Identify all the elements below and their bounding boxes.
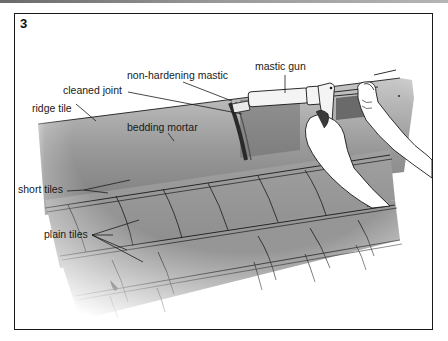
label-plain-tiles: plain tiles	[44, 229, 88, 240]
step-number: 3	[20, 16, 27, 31]
label-cleaned-joint: cleaned joint	[63, 85, 122, 96]
label-non-hardening-mastic: non-hardening mastic	[127, 70, 228, 81]
label-bedding-mortar: bedding mortar	[127, 122, 198, 133]
label-mastic-gun: mastic gun	[255, 61, 306, 72]
label-short-tiles: short tiles	[18, 184, 63, 195]
label-ridge-tile: ridge tile	[32, 103, 72, 114]
roof-illustration	[0, 0, 448, 341]
